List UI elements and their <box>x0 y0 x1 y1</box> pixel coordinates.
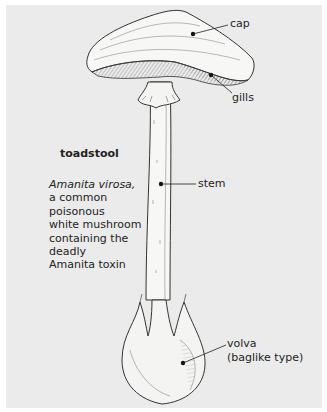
volva-type-label: (baglike type) <box>227 351 303 364</box>
cap-label: cap <box>230 17 250 30</box>
ring-shape <box>138 82 180 108</box>
gills-label: gills <box>232 91 254 104</box>
stem-shape <box>146 82 171 300</box>
species-name: Amanita virosa, <box>49 178 141 191</box>
cap-shape <box>87 10 254 85</box>
stem-label: stem <box>198 177 226 190</box>
figure-title: toadstool <box>60 147 119 160</box>
volva-label: volva <box>227 337 257 350</box>
description-line: deadly <box>49 245 141 258</box>
description-line: a common <box>49 191 141 204</box>
description-line: containing the <box>49 232 141 245</box>
volva-shape <box>122 294 205 404</box>
description-line: white mushroom <box>49 218 141 231</box>
description-line: Amanita toxin <box>49 258 141 271</box>
figure-description: Amanita virosa, a common poisonous white… <box>49 178 141 272</box>
description-line: poisonous <box>49 205 141 218</box>
